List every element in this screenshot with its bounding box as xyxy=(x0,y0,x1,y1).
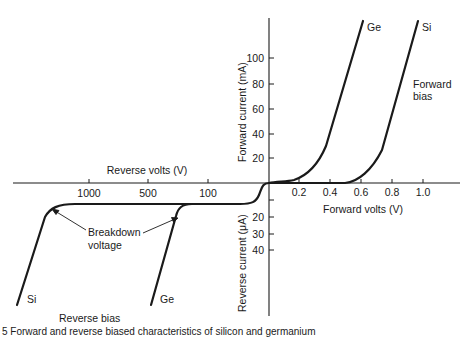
forward-volts-tick-labels: 0.2 0.4 0.6 0.8 1.0 xyxy=(292,186,431,198)
arrow-to-si-breakdown xyxy=(55,211,86,230)
arrow-head-ge xyxy=(172,218,179,223)
reverse-current-ticks xyxy=(269,200,274,250)
reverse-leakage-curve xyxy=(75,183,269,204)
tick-rc-30: 30 xyxy=(252,228,264,240)
tick-fc-40: 40 xyxy=(252,128,264,140)
reverse-current-tick-labels: 20 30 40 xyxy=(252,211,264,256)
tick-fv-0.6: 0.6 xyxy=(354,186,369,198)
ge-reverse-breakdown-curve xyxy=(151,204,192,305)
ge-forward-label: Ge xyxy=(367,21,381,33)
reverse-volts-ticks xyxy=(89,179,208,183)
si-forward-curve xyxy=(269,21,418,183)
forward-bias-label-line2: bias xyxy=(413,90,432,102)
forward-volts-label: Forward volts (V) xyxy=(323,203,403,215)
tick-fc-60: 60 xyxy=(252,103,264,115)
ge-reverse-label: Ge xyxy=(160,293,174,305)
forward-bias-label-line1: Forward xyxy=(413,78,452,90)
tick-fv-1.0: 1.0 xyxy=(416,186,431,198)
diode-characteristic-diagram: 100 80 60 40 20 Forward current (mA) 20 … xyxy=(0,0,464,337)
figure-caption: 5 Forward and reverse biased characteris… xyxy=(2,326,315,337)
reverse-bias-label: Reverse bias xyxy=(59,312,120,324)
tick-fv-0.2: 0.2 xyxy=(292,186,307,198)
tick-rv-1000: 1000 xyxy=(77,187,101,199)
tick-fv-0.8: 0.8 xyxy=(385,186,400,198)
arrow-to-ge-breakdown xyxy=(143,219,175,233)
si-reverse-breakdown-curve xyxy=(17,204,75,305)
reverse-volts-tick-labels: 1000 500 100 xyxy=(77,187,217,199)
tick-rv-500: 500 xyxy=(139,187,157,199)
forward-current-ticks xyxy=(269,58,274,158)
tick-rv-100: 100 xyxy=(199,187,217,199)
breakdown-label-line2: voltage xyxy=(88,239,122,251)
breakdown-label-line1: Breakdown xyxy=(88,226,141,238)
si-forward-label: Si xyxy=(422,21,431,33)
tick-fc-20: 20 xyxy=(252,152,264,164)
forward-current-tick-labels: 100 80 60 40 20 xyxy=(246,52,264,164)
reverse-current-label: Reverse current (μA) xyxy=(236,214,248,312)
reverse-volts-label: Reverse volts (V) xyxy=(107,164,188,176)
ge-forward-curve xyxy=(269,21,363,183)
curves xyxy=(17,21,418,305)
forward-current-label: Forward current (mA) xyxy=(236,62,248,162)
tick-rc-20: 20 xyxy=(252,211,264,223)
arrow-head-si xyxy=(52,209,59,215)
tick-fv-0.4: 0.4 xyxy=(323,186,338,198)
tick-fc-100: 100 xyxy=(246,52,264,64)
tick-fc-80: 80 xyxy=(252,78,264,90)
tick-rc-40: 40 xyxy=(252,244,264,256)
si-reverse-label: Si xyxy=(27,293,36,305)
